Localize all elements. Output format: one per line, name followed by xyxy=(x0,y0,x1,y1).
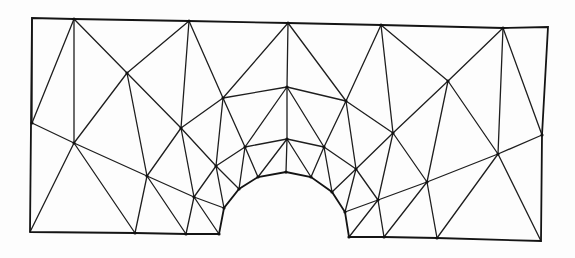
mesh-edge xyxy=(32,123,74,143)
mesh-edge xyxy=(345,169,356,212)
mesh-node xyxy=(125,71,128,74)
mesh-node xyxy=(344,99,347,102)
mesh-edge xyxy=(498,28,503,154)
mesh-diagram: Triangular finite element mesh of rectan… xyxy=(0,0,575,258)
mesh-edge xyxy=(127,21,189,73)
mesh-edge xyxy=(287,139,311,177)
mesh-node xyxy=(309,175,312,178)
plate-boundary-with-notch xyxy=(30,18,548,241)
mesh-edge xyxy=(135,176,147,233)
mesh-edge xyxy=(216,98,223,166)
mesh-edge xyxy=(239,147,245,189)
mesh-edge xyxy=(346,25,381,101)
mesh-node xyxy=(184,232,187,235)
mesh-edge xyxy=(287,139,324,147)
mesh-edge xyxy=(393,133,427,182)
mesh-edge xyxy=(245,87,287,147)
mesh-edge xyxy=(245,139,287,147)
mesh-edge xyxy=(287,23,288,87)
mesh-node xyxy=(376,198,379,201)
mesh-edge xyxy=(194,166,216,197)
mesh-edge xyxy=(286,139,287,172)
mesh-node xyxy=(221,96,224,99)
mesh-node xyxy=(145,174,148,177)
mesh-node xyxy=(256,175,259,178)
mesh-edge xyxy=(30,143,74,232)
mesh-node xyxy=(222,206,225,209)
mesh-edge xyxy=(258,139,287,177)
mesh-edge xyxy=(311,147,324,177)
mesh-node xyxy=(425,180,428,183)
mesh-edges xyxy=(30,18,542,241)
mesh-node xyxy=(284,170,287,173)
mesh-edge xyxy=(287,87,324,147)
mesh-node xyxy=(354,167,357,170)
mesh-node xyxy=(187,19,190,22)
mesh-edge xyxy=(127,73,147,176)
mesh-node xyxy=(179,126,182,129)
mesh-edge xyxy=(393,81,448,133)
mesh-node xyxy=(540,133,543,136)
mesh-edge xyxy=(127,73,181,128)
mesh-node xyxy=(192,195,195,198)
mesh-edge xyxy=(223,87,287,98)
mesh-node xyxy=(285,85,288,88)
mesh-node xyxy=(435,236,438,239)
mesh-edge xyxy=(324,101,346,147)
mesh-node xyxy=(322,145,325,148)
mesh-edge xyxy=(186,197,194,234)
mesh-node xyxy=(285,137,288,140)
mesh-edge xyxy=(448,81,498,154)
mesh-edge xyxy=(245,147,258,177)
mesh-node xyxy=(72,141,75,144)
mesh-edge xyxy=(427,182,437,238)
mesh-node xyxy=(501,26,504,29)
mesh-edge xyxy=(181,21,189,128)
mesh-node xyxy=(72,17,75,20)
mesh-edge xyxy=(324,147,356,169)
mesh-edge xyxy=(223,23,288,98)
mesh-edge xyxy=(223,98,245,147)
mesh-edge xyxy=(194,197,219,234)
mesh-edge xyxy=(498,135,542,154)
mesh-edge xyxy=(147,128,181,176)
mesh-edge xyxy=(427,81,448,182)
mesh-node xyxy=(382,235,385,238)
mesh-node xyxy=(343,210,346,213)
mesh-node xyxy=(391,131,394,134)
mesh-edge xyxy=(378,200,384,237)
mesh-edge xyxy=(381,25,448,81)
mesh-edge xyxy=(381,25,393,133)
mesh-edge xyxy=(378,133,393,200)
mesh-node xyxy=(30,121,33,124)
mesh-edge xyxy=(32,19,74,123)
mesh-edge xyxy=(181,128,216,166)
mesh-edge xyxy=(448,28,503,81)
mesh-edge xyxy=(324,147,332,192)
mesh-node xyxy=(214,164,217,167)
mesh-node xyxy=(347,235,350,238)
mesh-edge xyxy=(216,147,245,166)
triangular-mesh xyxy=(0,0,575,258)
mesh-node xyxy=(133,231,136,234)
mesh-node xyxy=(286,21,289,24)
mesh-edge xyxy=(346,101,356,169)
mesh-edge xyxy=(356,169,378,200)
mesh-edge xyxy=(74,19,127,73)
mesh-node xyxy=(237,187,240,190)
mesh-node xyxy=(446,79,449,82)
mesh-edge xyxy=(498,154,541,241)
mesh-node xyxy=(496,152,499,155)
mesh-edge xyxy=(503,28,542,135)
mesh-node xyxy=(379,23,382,26)
mesh-edge xyxy=(356,133,393,169)
mesh-edge xyxy=(74,73,127,143)
mesh-edge xyxy=(181,98,223,128)
mesh-edge xyxy=(181,128,194,197)
mesh-node xyxy=(243,145,246,148)
mesh-node xyxy=(217,232,220,235)
mesh-edge xyxy=(189,21,223,98)
mesh-node xyxy=(330,190,333,193)
mesh-edge xyxy=(346,101,393,133)
